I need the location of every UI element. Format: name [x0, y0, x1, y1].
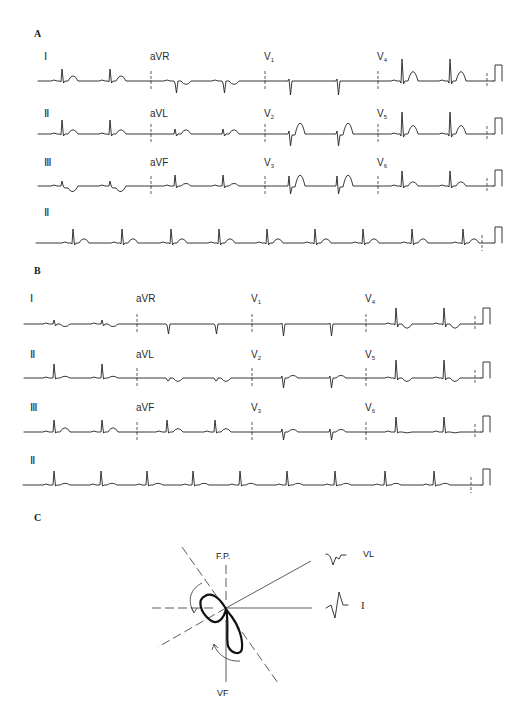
ecg-trace-avl [151, 129, 265, 136]
ecg-trace-ii [24, 364, 137, 379]
calibration-pulse [481, 469, 490, 485]
lead-row-3: ⅢaVFV3V6 [24, 401, 490, 440]
ecg-trace-v2 [252, 375, 366, 388]
ecg-trace-iii [38, 181, 151, 192]
ecg-trace-v3 [252, 429, 366, 440]
lead-label-avr: aVR [136, 293, 155, 304]
vl-complex-icon [326, 554, 346, 565]
lead-label-v4: V4 [365, 293, 376, 305]
lead-i-complex-icon [326, 592, 348, 618]
ecg-trace-v1 [265, 79, 378, 95]
panel-b-letter: B [34, 265, 41, 276]
lead-label-avf: aVF [150, 157, 168, 168]
calibration-pulse [481, 362, 490, 378]
lead-label-v5: V5 [377, 108, 388, 120]
calibration-pulse [493, 170, 502, 186]
lead-i-label: I [361, 599, 365, 611]
lead-label-v6: V6 [377, 157, 388, 169]
ecg-trace-v3 [265, 175, 378, 194]
panel-b-12-lead-ecg: B ⅠaVRV1V4ⅡaVLV2V5ⅢaVFV3V6Ⅱ [23, 265, 490, 493]
ecg-trace-i [38, 69, 151, 83]
lead-vl-axis-extension [158, 608, 226, 647]
ecg-trace-avr [151, 80, 265, 93]
lead-label-avf: aVF [136, 402, 154, 413]
lead-label-v6: V6 [365, 402, 376, 414]
lead-label-i: Ⅰ [44, 50, 47, 62]
rhythm-strip: Ⅱ [36, 206, 502, 251]
ecg-trace-v2 [265, 123, 378, 146]
lead-row-2: ⅡaVLV2V5 [38, 107, 502, 146]
calibration-pulse [481, 416, 490, 432]
lead-label-v2: V2 [264, 108, 275, 120]
panel-a-12-lead-ecg: A ⅠaVRV1V4ⅡaVLV2V5ⅢaVFV3V6Ⅱ [34, 28, 502, 251]
ecg-trace-avr [137, 324, 252, 334]
lead-row-2: ⅡaVLV2V5 [24, 348, 490, 388]
vl-label: VL [363, 549, 374, 559]
calibration-pulse [481, 308, 490, 324]
lead-label-avr: aVR [150, 51, 169, 62]
panel-a-letter: A [34, 28, 42, 39]
lead-label-v3: V3 [264, 157, 275, 169]
lead-label-v3: V3 [251, 402, 262, 414]
vf-label: VF [217, 688, 229, 698]
lead-label-ii: Ⅱ [44, 206, 49, 218]
lead-label-iii: Ⅲ [44, 156, 52, 168]
ecg-trace-rhythm-ii [23, 471, 481, 486]
lead-label-v4: V4 [377, 51, 388, 63]
ecg-trace-v6 [378, 171, 493, 188]
lead-label-avl: aVL [150, 108, 168, 119]
ecg-trace-i [24, 320, 137, 327]
ecg-trace-avl [137, 378, 252, 381]
ecg-trace-v5 [366, 360, 481, 381]
ecg-trace-rhythm-ii [36, 229, 493, 245]
ecg-trace-v4 [366, 308, 481, 328]
lead-row-1: ⅠaVRV1V4 [38, 50, 502, 95]
rhythm-strip: Ⅱ [23, 454, 490, 493]
lead-label-ii: Ⅱ [30, 348, 35, 360]
ecg-trace-v5 [378, 112, 493, 137]
lead-row-1: ⅠaVRV1V4 [24, 292, 490, 336]
lead-row-3: ⅢaVFV3V6 [38, 156, 502, 194]
ecg-trace-avf [151, 175, 265, 188]
ecg-trace-v6 [366, 417, 481, 433]
calibration-pulse [493, 118, 502, 134]
ecg-figure: A ⅠaVRV1V4ⅡaVLV2V5ⅢaVFV3V6Ⅱ B ⅠaVRV1V4Ⅱa… [0, 0, 530, 728]
lead-label-i: Ⅰ [30, 292, 33, 304]
lead-label-ii: Ⅱ [44, 107, 49, 119]
lead-label-avl: aVL [136, 349, 154, 360]
lead-label-v1: V1 [264, 51, 275, 63]
lead-label-v2: V2 [251, 349, 262, 361]
ecg-trace-avf [137, 420, 252, 433]
ecg-trace-ii [38, 120, 151, 136]
calibration-pulse [493, 227, 502, 243]
ecg-trace-v1 [252, 323, 366, 336]
lead-label-v1: V1 [251, 293, 262, 305]
panel-c-vectorcardiogram-diagram: C F.P. VF VL I [34, 512, 374, 698]
panel-c-letter: C [34, 512, 41, 523]
calibration-pulse [493, 65, 502, 81]
lead-vl-axis [226, 561, 311, 608]
fp-label: F.P. [216, 551, 230, 561]
lead-label-iii: Ⅲ [30, 401, 38, 413]
figure-eight-loop [200, 595, 242, 653]
ecg-trace-iii [24, 420, 137, 433]
ecg-trace-v4 [378, 59, 493, 84]
lead-label-v5: V5 [365, 349, 376, 361]
lead-label-ii: Ⅱ [30, 454, 35, 466]
